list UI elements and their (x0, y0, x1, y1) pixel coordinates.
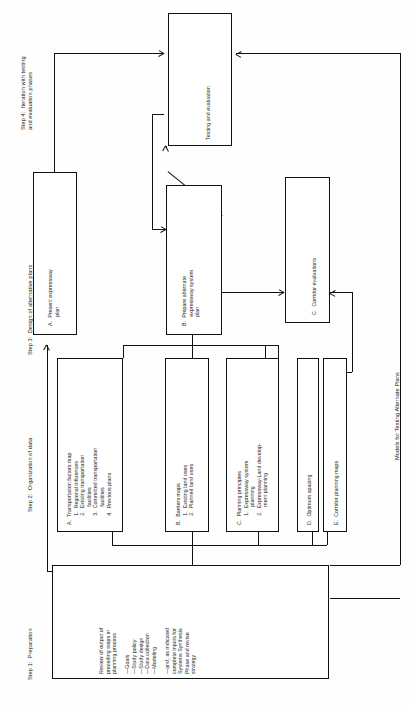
box-step3-c-label: C. Corridor evaluations (311, 258, 318, 315)
box-step2-a-transportation-factors-map[interactable]: A. Transportation factors map 1. Regiona… (57, 358, 123, 532)
connector-iteration-top-into-testing (54, 53, 164, 54)
box-step3-c-corridor-evaluations[interactable]: C. Corridor evaluations (285, 177, 330, 323)
connector-step1-bus-horizontal (112, 545, 327, 546)
connector-bus-drop-c (265, 345, 266, 358)
connector-right-loop-vertical (400, 53, 401, 565)
connector-b-to-corridor (222, 292, 284, 293)
connector-testing-bottom-stub (152, 114, 164, 115)
box-step1-label: Review of output of preceding steps in p… (98, 628, 197, 674)
connector-bus-drop-d (278, 345, 279, 358)
connector-bus-drop-a (123, 345, 124, 358)
box-step2-e-corridor-planning-maps[interactable]: E. Corridor planning maps (323, 358, 347, 532)
connector-step1-to-step3a-vertical (47, 345, 48, 571)
connector-e-to-corridor-vertical (352, 292, 353, 372)
step-2-label: Step 2: Organization of data (27, 438, 34, 512)
box-testing-label: Testing and evaluation (205, 86, 212, 140)
box-step3-a-label: A. Present expressway plan (47, 269, 60, 326)
box-step2-c-planning-principles[interactable]: C. Planning principles 1. Expressway sys… (226, 358, 279, 532)
connector-right-loop-bottom (330, 565, 400, 566)
connector-testing-bottom-short (166, 146, 167, 148)
box-step3-a-present-expressway-plan[interactable]: A. Present expressway plan (33, 172, 77, 335)
box-step2-d-optimum-spacing[interactable]: D. Optimum spacing (297, 358, 319, 532)
connector-step1-bus-up-a (112, 532, 113, 545)
connector-step1-bus-up-d (312, 532, 313, 545)
step-1-label: Step 1: Preparation (27, 628, 34, 680)
connector-step1-bus-up-c (258, 532, 259, 545)
connector-bus-drop-b (192, 345, 193, 358)
connector-step2-bus-horizontal (123, 345, 278, 346)
box-step2-b-barriers-maps[interactable]: B. Barriers maps 1. Existing land uses 2… (165, 358, 209, 532)
connector-iteration-left-vertical (54, 53, 55, 173)
box-step2-a-label: A. Transportation factors map 1. Regiona… (66, 448, 112, 525)
box-step1-preparation[interactable]: Review of output of preceding steps in p… (52, 565, 329, 679)
connector-step1-bus-up-e (327, 532, 328, 545)
box-step2-c-label: C. Planning principles 1. Expressway sys… (236, 443, 269, 525)
box-step3-b-prepare-alternate-plan[interactable]: B. Prepare alternate expressway system p… (166, 185, 222, 335)
connector-step1-right-feed (330, 598, 400, 599)
box-step3-b-label: B. Prepare alternate expressway system p… (181, 270, 201, 326)
connector-right-loop-top (236, 53, 400, 54)
step-4-label: Step 4: Iteration with testing and evalu… (20, 56, 35, 130)
box-step2-e-label: E. Corridor planning maps (333, 461, 340, 525)
connector-step1-trunk-down (192, 545, 193, 565)
box-step2-b-label: B. Barriers maps 1. Existing land uses 2… (175, 464, 195, 525)
box-step2-d-label: D. Optimum spacing (306, 475, 313, 525)
connector-step1-bus-up-b (192, 532, 193, 545)
box-testing-and-evaluation[interactable]: Testing and evaluation (168, 13, 232, 146)
flowchart-canvas: Step 4: Iteration with testing and evalu… (0, 0, 413, 709)
connector-b-to-testing-vertical (152, 114, 153, 229)
